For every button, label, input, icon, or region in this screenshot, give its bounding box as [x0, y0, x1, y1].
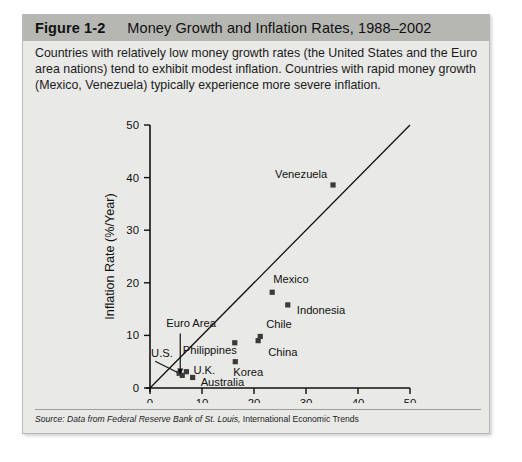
scatter-marker	[270, 290, 275, 295]
data-point-label: U.S.	[151, 347, 173, 359]
y-axis-tick-label: 10	[126, 329, 139, 341]
scatter-marker	[258, 334, 263, 339]
data-point: Chile	[258, 318, 292, 339]
source-regular: International Economic Trends	[240, 414, 358, 424]
data-point-label: U.K.	[193, 364, 215, 376]
scatter-marker	[190, 375, 195, 380]
data-point-label: Korea	[233, 366, 264, 378]
data-point-label: Euro Area	[166, 317, 217, 329]
figure-number: Figure 1-2	[35, 20, 105, 36]
data-point: Philippines	[183, 340, 238, 356]
data-point: U.K.	[184, 364, 215, 376]
data-point: Indonesia	[285, 302, 346, 316]
scatter-marker	[330, 182, 335, 187]
x-axis-tick-label: 30	[300, 397, 313, 403]
y-axis-tick-label: 0	[133, 382, 139, 394]
source-italic: Source: Data from Federal Reserve Bank o…	[35, 414, 240, 424]
chart-svg: 0102030405001020304050Broad Money Growth…	[23, 103, 491, 403]
data-point-label: Chile	[266, 318, 292, 330]
figure-caption: Countries with relatively low money grow…	[35, 45, 479, 94]
data-point-label: Venezuela	[275, 168, 328, 180]
data-point-label: Philippines	[183, 344, 238, 356]
y-axis-tick-label: 40	[126, 172, 139, 184]
figure-title: Money Growth and Inflation Rates, 1988–2…	[127, 20, 431, 36]
source-note: Source: Data from Federal Reserve Bank o…	[35, 409, 481, 424]
y-axis-tick-label: 20	[126, 277, 139, 289]
data-point-label: Indonesia	[297, 304, 346, 316]
scatter-marker	[184, 369, 189, 374]
us-leader-line	[155, 361, 177, 372]
y-axis-tick-label: 50	[126, 119, 139, 131]
scatter-marker	[285, 302, 290, 307]
data-point: Korea	[233, 359, 264, 378]
data-point: China	[256, 338, 299, 358]
figure-container: Figure 1-2 Money Growth and Inflation Ra…	[22, 14, 490, 434]
x-axis-tick-label: 0	[147, 397, 153, 403]
x-axis-tick-label: 20	[248, 397, 261, 403]
scatter-chart: 0102030405001020304050Broad Money Growth…	[23, 103, 491, 403]
x-axis-tick-label: 40	[352, 397, 365, 403]
data-point: Venezuela	[275, 168, 336, 188]
figure-header: Figure 1-2 Money Growth and Inflation Ra…	[23, 15, 489, 41]
y-axis-title: Inflation Rate (%/Year)	[103, 193, 117, 319]
data-point-label: Mexico	[273, 273, 308, 285]
x-axis-tick-label: 10	[196, 397, 209, 403]
scatter-marker	[233, 359, 238, 364]
data-point-label: China	[268, 346, 298, 358]
x-axis-tick-label: 50	[404, 397, 417, 403]
data-point: Mexico	[270, 273, 309, 295]
data-point-label: Australia	[201, 376, 245, 388]
y-axis-tick-label: 30	[126, 224, 139, 236]
